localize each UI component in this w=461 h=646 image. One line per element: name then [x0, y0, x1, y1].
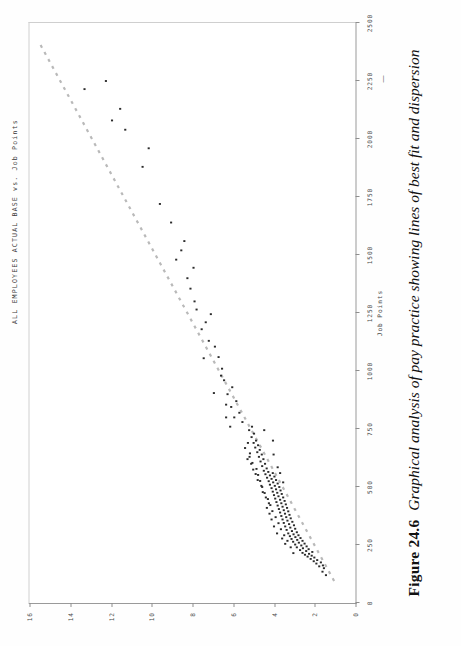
scatter-point	[278, 486, 280, 488]
scatter-point	[316, 559, 318, 561]
scatter-point	[248, 456, 250, 458]
scatter-point	[276, 492, 278, 494]
scatter-point	[257, 474, 259, 476]
scatter-point	[274, 498, 276, 500]
scatter-point	[322, 567, 324, 569]
x-tick-label: 1750	[365, 188, 372, 207]
y-tick	[111, 603, 112, 607]
scatter-point	[124, 129, 126, 131]
rotated-figure-wrapper: ALL EMPLOYEES ACTUAL BASE vs. Job Points…	[0, 0, 461, 646]
scatter-point	[209, 313, 211, 315]
scatter-point	[270, 519, 272, 521]
scatter-point	[248, 429, 250, 431]
scatter-point	[180, 249, 182, 251]
scatter-point	[246, 442, 248, 444]
scatter-point	[270, 478, 272, 480]
scatter-point	[202, 357, 204, 359]
scatter-point	[274, 488, 276, 490]
scatter-point	[299, 537, 301, 539]
figure-caption: Figure 24.6Graphical analysis of pay pra…	[404, 0, 422, 646]
scatter-point	[279, 472, 281, 474]
scatter-point	[285, 507, 287, 509]
scatter-point	[315, 563, 317, 565]
scatter-point	[305, 545, 307, 547]
scatter-point	[312, 560, 314, 562]
scatter-point	[254, 473, 256, 475]
scatter-point	[289, 527, 291, 529]
y-tick	[314, 603, 315, 607]
chart-title: ALL EMPLOYEES ACTUAL BASE vs. Job Points	[10, 119, 18, 324]
scatter-point	[300, 545, 302, 547]
scatter-point	[321, 571, 323, 573]
scatter-point	[264, 473, 266, 475]
scatter-point	[207, 340, 209, 342]
x-tick	[355, 312, 359, 313]
scatter-point	[262, 458, 264, 460]
scatter-point	[186, 277, 188, 279]
x-tick-label: 500	[365, 480, 372, 494]
scatter-point	[303, 543, 305, 545]
scatter-point	[321, 564, 323, 566]
scatter-point	[294, 536, 296, 538]
scatter-point	[290, 538, 292, 540]
scatter-point	[272, 481, 274, 483]
scatter-point	[281, 538, 283, 540]
x-tick	[355, 80, 359, 81]
scatter-point	[225, 404, 227, 406]
scatter-point	[256, 479, 258, 481]
scatter-point	[170, 222, 172, 224]
y-tick-label: 14	[66, 612, 73, 621]
scatter-point	[295, 531, 297, 533]
scatter-point	[175, 259, 177, 261]
scatter-point	[260, 454, 262, 456]
axis-end-dash-marker: —	[378, 76, 385, 83]
scatter-point	[226, 393, 228, 395]
scatter-point	[277, 522, 279, 524]
scatter-point	[269, 504, 271, 506]
scatter-point	[261, 491, 263, 493]
x-tick-label: 1500	[365, 246, 372, 265]
scatter-point	[252, 442, 254, 444]
scatter-point	[279, 499, 281, 501]
scatter-point	[275, 501, 277, 503]
x-tick-label: 2000	[365, 130, 372, 149]
scatter-point	[104, 80, 106, 82]
x-tick	[355, 254, 359, 255]
scatter-point	[265, 507, 267, 509]
scatter-point	[195, 309, 197, 311]
scatter-point	[158, 203, 160, 205]
scatter-point	[292, 552, 294, 554]
scatter-point	[295, 546, 297, 548]
scatter-point	[255, 440, 257, 442]
scatter-point	[221, 368, 223, 370]
scatter-point	[230, 406, 232, 408]
scatter-point	[266, 498, 268, 500]
y-tick-label: 2	[311, 612, 318, 617]
scatter-point	[257, 456, 259, 458]
scatter-point	[277, 495, 279, 497]
scatter-point	[261, 465, 263, 467]
scatter-point	[110, 120, 112, 122]
y-tick-label: 4	[270, 612, 277, 617]
scatter-point	[287, 510, 289, 512]
scatter-point	[193, 300, 195, 302]
y-tick	[29, 603, 30, 607]
scatter-point	[272, 454, 274, 456]
x-tick	[355, 486, 359, 487]
scatter-point	[200, 328, 202, 330]
y-tick-label: 16	[26, 612, 33, 621]
scatter-point	[235, 400, 237, 402]
scatter-point	[259, 461, 261, 463]
scatter-point	[276, 483, 278, 485]
x-tick	[355, 196, 359, 197]
scatter-point	[287, 532, 289, 534]
x-tick-label: 1250	[365, 304, 372, 323]
scatter-point	[282, 522, 284, 524]
scatter-point	[292, 533, 294, 535]
y-tick	[355, 603, 356, 607]
y-tick-label: 6	[229, 612, 236, 617]
x-tick	[355, 22, 359, 23]
scatter-point	[311, 551, 313, 553]
scatter-point	[268, 484, 270, 486]
scatter-point	[279, 490, 281, 492]
